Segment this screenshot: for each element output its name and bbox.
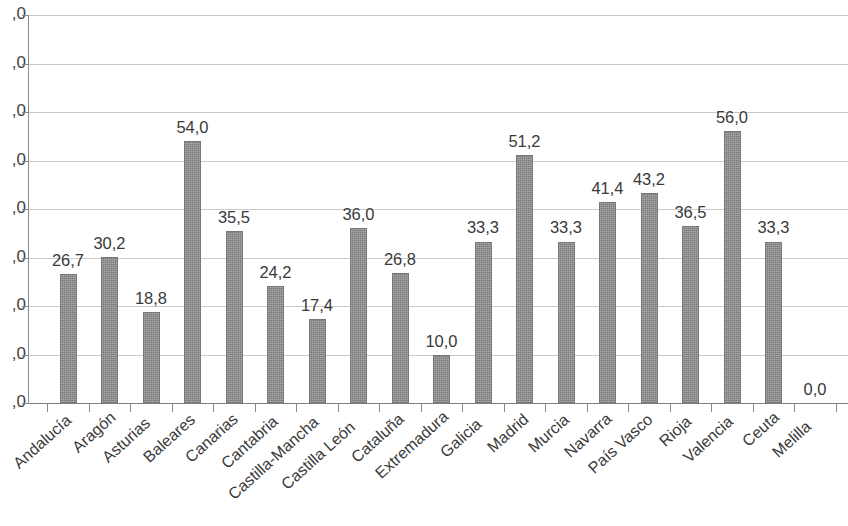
bar-value-label: 43,2 <box>620 170 678 189</box>
bar-value-label: 0,0 <box>786 380 844 399</box>
bar <box>60 274 77 403</box>
bar-value-label: 36,5 <box>662 203 720 222</box>
x-axis-category-labels: AndalucíaAragónAsturiasBalearesCanariasC… <box>0 405 848 526</box>
bar <box>475 242 492 404</box>
x-axis-category-label: Madrid <box>484 410 532 456</box>
y-axis-tick-label: ,0 <box>0 344 26 364</box>
y-axis-tick-label: ,0 <box>0 247 26 267</box>
y-axis-tick-mark <box>22 64 29 65</box>
y-axis-tick-label: ,0 <box>0 53 26 73</box>
bar-value-label: 30,2 <box>81 234 139 253</box>
gridline <box>28 15 848 16</box>
bar <box>184 141 201 403</box>
y-axis-tick-label: ,0 <box>0 101 26 121</box>
gridline <box>28 64 848 65</box>
y-axis-tick-label: ,0 <box>0 150 26 170</box>
bar-value-label: 24,2 <box>247 263 305 282</box>
bar-value-label: 36,0 <box>330 205 388 224</box>
plot-area: 26,730,218,854,035,524,217,436,026,810,0… <box>28 15 848 403</box>
y-axis-tick-mark <box>22 161 29 162</box>
bar-value-label: 26,8 <box>371 250 429 269</box>
bar <box>516 155 533 403</box>
bar-value-label: 10,0 <box>413 332 471 351</box>
y-axis-tick-label: ,0 <box>0 295 26 315</box>
bar <box>433 355 450 404</box>
bar <box>724 131 741 403</box>
bar <box>226 231 243 403</box>
bar-value-label: 54,0 <box>164 118 222 137</box>
y-axis-tick-mark <box>22 15 29 16</box>
bar <box>392 273 409 403</box>
bar-value-label: 33,3 <box>454 218 512 237</box>
bar-value-label: 35,5 <box>205 208 263 227</box>
bar-value-label: 33,3 <box>745 218 803 237</box>
x-axis-category-label: Andalucía <box>10 411 75 472</box>
y-axis-tick-mark <box>22 355 29 356</box>
y-axis-tick-label: ,0 <box>0 4 26 24</box>
y-axis-tick-mark <box>22 112 29 113</box>
bar <box>101 257 118 403</box>
y-axis-tick-label: ,0 <box>0 198 26 218</box>
bar-value-label: 17,4 <box>288 296 346 315</box>
bar <box>350 228 367 403</box>
y-axis-tick-mark <box>22 258 29 259</box>
bar-value-label: 56,0 <box>703 108 761 127</box>
bar <box>641 193 658 403</box>
bar-value-label: 18,8 <box>122 289 180 308</box>
bar <box>558 242 575 404</box>
bar <box>765 242 782 404</box>
y-axis-tick-mark <box>22 306 29 307</box>
bar <box>599 202 616 403</box>
bar <box>309 319 326 403</box>
bar-value-label: 51,2 <box>496 132 554 151</box>
bar <box>267 286 284 403</box>
bar-value-label: 26,7 <box>39 251 97 270</box>
bar-chart: ,0,0,0,0,0,0,0,0,0 26,730,218,854,035,52… <box>0 0 848 526</box>
bar-value-label: 33,3 <box>537 218 595 237</box>
bar <box>143 312 160 403</box>
bar <box>682 226 699 403</box>
y-axis-tick-mark <box>22 209 29 210</box>
